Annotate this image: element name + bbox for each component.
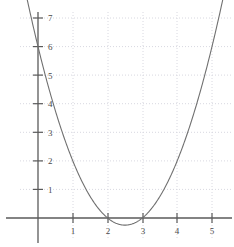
x-tick-label-2: 2 bbox=[106, 226, 111, 236]
y-tick-label-1: 1 bbox=[48, 185, 53, 195]
y-tick-label-7: 7 bbox=[48, 13, 53, 23]
y-tick-label-5: 5 bbox=[48, 71, 53, 81]
parabola-chart: 1 2 3 4 5 1 2 3 4 5 6 7 bbox=[0, 0, 234, 247]
y-tick-label-2: 2 bbox=[48, 156, 53, 166]
x-tick-label-1: 1 bbox=[71, 226, 76, 236]
x-tick-label-3: 3 bbox=[141, 226, 146, 236]
y-tick-label-3: 3 bbox=[48, 128, 53, 138]
chart-container: 1 2 3 4 5 1 2 3 4 5 6 7 bbox=[0, 0, 234, 247]
y-tick-label-6: 6 bbox=[48, 42, 53, 52]
chart-background bbox=[0, 0, 234, 247]
x-tick-label-5: 5 bbox=[210, 226, 215, 236]
x-tick-label-4: 4 bbox=[175, 226, 180, 236]
